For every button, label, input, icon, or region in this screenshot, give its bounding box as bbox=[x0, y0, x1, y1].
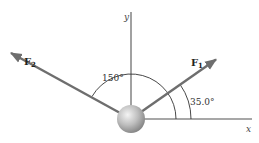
force-diagram: y x F2 F1 150° 35.0° bbox=[0, 0, 259, 143]
angle-label-35: 35.0° bbox=[190, 97, 215, 107]
x-axis-label: x bbox=[246, 124, 251, 134]
y-axis-label: y bbox=[123, 12, 130, 22]
force-f2-label: F2 bbox=[24, 56, 36, 69]
force-f1-label: F1 bbox=[191, 57, 203, 70]
angle-label-150: 150° bbox=[102, 73, 124, 83]
sphere-object bbox=[117, 105, 145, 133]
force-f1-arrow bbox=[131, 60, 216, 120]
